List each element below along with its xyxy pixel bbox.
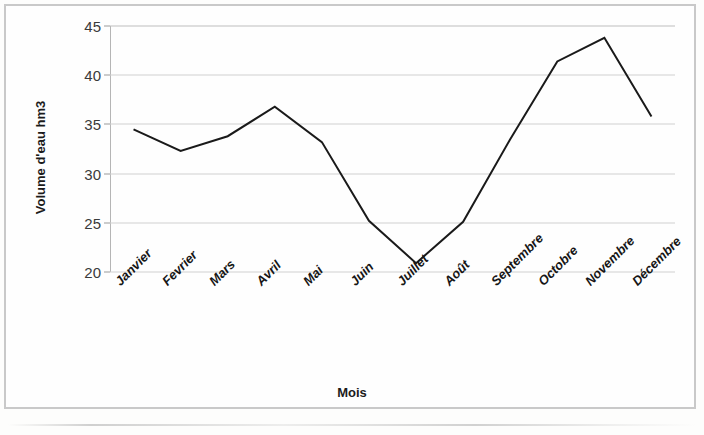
y-tick-label-25: 25 bbox=[84, 214, 101, 231]
y-tick-label-30: 30 bbox=[84, 165, 101, 182]
chart-figure: Volume d'eau hm3 202530354045 JanvierFev… bbox=[0, 0, 704, 435]
series-line-volume-deau bbox=[110, 26, 675, 272]
scan-artifact bbox=[8, 424, 696, 426]
y-tick-label-20: 20 bbox=[84, 264, 101, 281]
y-tick-label-45: 45 bbox=[84, 18, 101, 35]
y-tick-label-40: 40 bbox=[84, 67, 101, 84]
y-tick-label-35: 35 bbox=[84, 116, 101, 133]
y-axis-title: Volume d'eau hm3 bbox=[33, 58, 48, 258]
x-axis-title: Mois bbox=[0, 385, 704, 400]
plot-area: 202530354045 JanvierFevrierMarsAvrilMaiJ… bbox=[110, 26, 675, 272]
